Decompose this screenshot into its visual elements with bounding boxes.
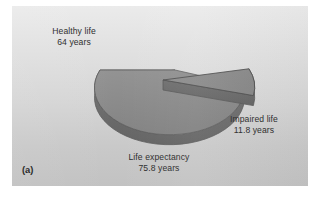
label-healthy-life: Healthy life 64 years	[28, 26, 120, 47]
label-life-expectancy: Life expectancy 75.8 years	[104, 152, 214, 173]
panel-letter: (a)	[22, 164, 33, 175]
figure-panel-a: Healthy life 64 years Impaired life 11.8…	[0, 0, 320, 198]
label-life-expectancy-line2: 75.8 years	[104, 163, 214, 174]
label-life-expectancy-line1: Life expectancy	[128, 152, 189, 162]
label-impaired-life: Impaired life 11.8 years	[208, 114, 300, 135]
chart-panel: Healthy life 64 years Impaired life 11.8…	[12, 6, 308, 186]
label-impaired-life-line2: 11.8 years	[208, 125, 300, 136]
label-impaired-life-line1: Impaired life	[230, 114, 278, 124]
label-healthy-life-line2: 64 years	[28, 37, 120, 48]
label-healthy-life-line1: Healthy life	[52, 26, 96, 36]
